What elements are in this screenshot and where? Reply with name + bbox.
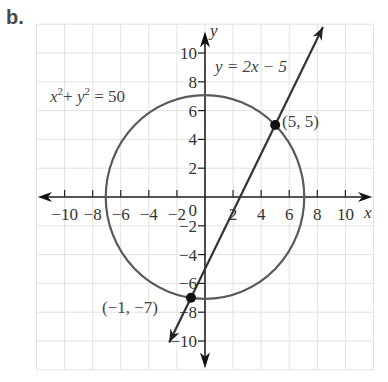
svg-text:−8: −8: [179, 303, 197, 322]
svg-text:2: 2: [229, 205, 238, 224]
chart-plot: −10−8−6−4−2246810108642−2−4−6−8−100 y x …: [0, 0, 388, 382]
svg-text:10: 10: [180, 44, 197, 63]
svg-text:6: 6: [189, 102, 198, 121]
y-axis-label: y: [208, 21, 218, 40]
svg-text:4: 4: [257, 205, 266, 224]
svg-text:2: 2: [189, 159, 198, 178]
svg-text:6: 6: [285, 205, 294, 224]
svg-text:−6: −6: [179, 274, 197, 293]
point-label-5-5: (5, 5): [282, 112, 319, 131]
svg-text:0: 0: [189, 201, 198, 220]
svg-text:−8: −8: [84, 205, 102, 224]
svg-text:8: 8: [313, 205, 322, 224]
svg-text:8: 8: [189, 73, 198, 92]
x-axis-label: x: [363, 203, 372, 222]
svg-text:4: 4: [189, 130, 198, 149]
svg-text:−6: −6: [112, 205, 130, 224]
svg-text:−10: −10: [170, 332, 197, 351]
point-label-neg1-neg7: (−1, −7): [102, 298, 158, 317]
line-equation: y = 2x − 5: [213, 57, 287, 76]
svg-text:−4: −4: [140, 205, 159, 224]
svg-text:−4: −4: [179, 246, 198, 265]
circle-equation: x2+ y2 = 50: [49, 85, 125, 106]
svg-text:10: 10: [337, 205, 354, 224]
svg-text:−10: −10: [51, 205, 78, 224]
